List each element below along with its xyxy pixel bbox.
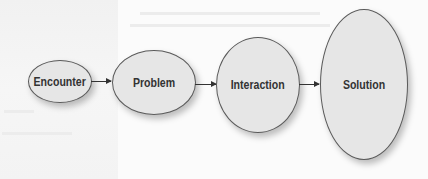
node-label: Problem: [133, 76, 175, 90]
node-label: Interaction: [231, 78, 285, 92]
arrow-problem-interaction: [195, 84, 216, 85]
node-label: Encounter: [34, 75, 86, 89]
arrow-interaction-solution: [299, 84, 319, 85]
node-problem: Problem: [112, 50, 196, 115]
background-decoration: [2, 132, 72, 135]
background-decoration: [140, 12, 320, 15]
node-label: Solution: [343, 78, 385, 92]
node-interaction: Interaction: [216, 37, 300, 133]
arrow-encounter-problem: [91, 81, 111, 82]
background-decoration: [130, 24, 330, 27]
node-solution: Solution: [320, 9, 408, 160]
background-decoration: [4, 110, 34, 113]
node-encounter: Encounter: [28, 60, 92, 103]
